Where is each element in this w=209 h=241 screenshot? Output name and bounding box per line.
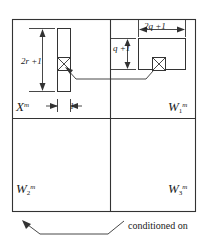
quadrant-label-x-base: X [16,99,24,114]
quadrant-label-x-sup: m [24,101,29,109]
quadrant-label-w1: W1m [168,100,187,115]
conditioned-on-label: conditioned on [128,221,188,231]
quadrant-label-w3-base: W [168,181,179,196]
quadrant-label-w1-sup: m [182,101,187,109]
dimension-label-height-right: q +1 [113,44,130,53]
dimension-label-width-left: 1 [70,103,74,111]
quadrant-label-w1-base: W [168,99,179,114]
quadrant-label-x: Xm [16,100,29,113]
conditioned-on-arrowhead [22,220,31,229]
figure-canvas [0,0,209,241]
dimension-label-width-right: 2q +1 [144,22,166,31]
quadrant-label-w3-sup: m [182,183,187,191]
conditioned-on-leader [24,221,124,234]
quadrant-label-w2: W2m [16,182,35,197]
dimension-label-height-left: 2r +1 [21,57,42,66]
quadrant-label-w3: W3m [168,182,187,197]
quadrant-label-w2-base: W [16,181,27,196]
quadrant-label-w2-sup: m [30,183,35,191]
